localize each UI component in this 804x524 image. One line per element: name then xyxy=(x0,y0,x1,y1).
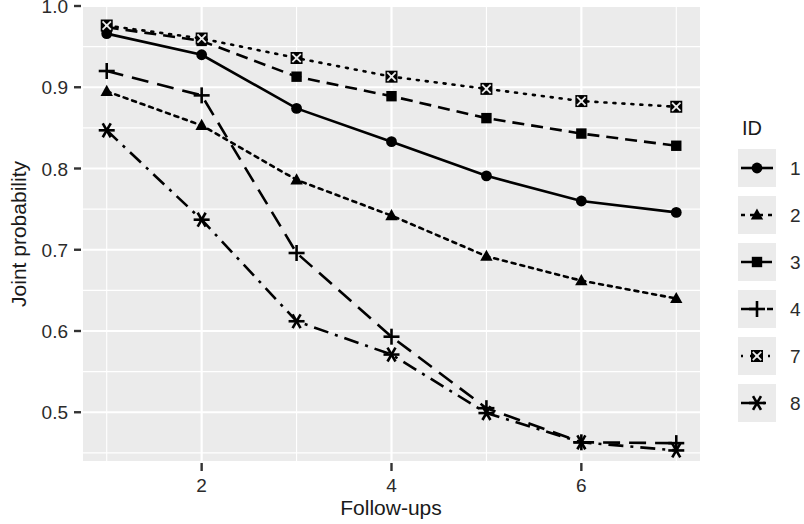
legend-item-8[interactable]: 8 xyxy=(738,384,801,422)
legend-item-3[interactable]: 3 xyxy=(738,243,801,281)
legend-item-4[interactable]: 4 xyxy=(738,290,801,328)
legend-label-8: 8 xyxy=(790,393,801,414)
x-tick-label: 2 xyxy=(196,475,207,496)
legend-title: ID xyxy=(742,117,762,139)
x-tick-label: 6 xyxy=(576,475,587,496)
y-tick-label: 0.7 xyxy=(42,240,68,261)
legend-entries: 123478 xyxy=(738,149,801,422)
y-tick-label: 1.0 xyxy=(42,0,68,17)
legend-item-2[interactable]: 2 xyxy=(738,196,801,234)
y-tick-label: 0.6 xyxy=(42,321,68,342)
legend-label-4: 4 xyxy=(790,299,801,320)
legend-label-1: 1 xyxy=(790,158,801,179)
y-tick-label: 0.9 xyxy=(42,77,68,98)
legend: ID 123478 xyxy=(738,117,801,422)
x-tick-label: 4 xyxy=(386,475,397,496)
y-tick-label: 0.5 xyxy=(42,402,68,423)
legend-label-3: 3 xyxy=(790,252,801,273)
y-axis: 0.50.60.70.80.91.0 xyxy=(42,0,81,423)
x-axis-title: Follow-ups xyxy=(340,496,442,519)
y-axis-title: Joint probability xyxy=(7,161,30,307)
legend-label-7: 7 xyxy=(790,346,801,367)
legend-label-2: 2 xyxy=(790,205,801,226)
chart-figure: 0.50.60.70.80.91.0 246 Joint probability… xyxy=(0,0,804,524)
joint-probability-line-chart: 0.50.60.70.80.91.0 246 Joint probability… xyxy=(0,0,804,524)
y-tick-label: 0.8 xyxy=(42,159,68,180)
legend-item-7[interactable]: 7 xyxy=(738,337,801,375)
x-axis: 246 xyxy=(196,463,586,496)
legend-item-1[interactable]: 1 xyxy=(738,149,801,187)
